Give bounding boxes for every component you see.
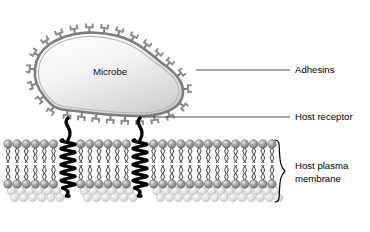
lipid-tail — [81, 165, 83, 182]
lipid-tail — [170, 146, 172, 163]
phospholipid-head-depth — [111, 193, 119, 201]
lipid-tail — [15, 165, 17, 182]
lipid-tail — [234, 165, 236, 182]
phospholipid-head — [95, 140, 103, 148]
lipid-tail — [43, 165, 45, 182]
phospholipid-head-depth — [165, 193, 173, 201]
lipid-tail — [206, 146, 208, 163]
lipid-tail — [216, 146, 218, 163]
phospholipid-head — [195, 180, 203, 188]
phospholipid-head-depth — [238, 193, 246, 201]
lipid-tail — [124, 146, 126, 163]
phospholipid-head-depth — [92, 193, 100, 201]
phospholipid-head — [195, 140, 203, 148]
lipid-tail — [36, 165, 38, 182]
lipid-tail — [45, 165, 47, 182]
phospholipid-head — [240, 180, 248, 188]
adhesin — [167, 58, 174, 66]
phospholipid-head — [259, 140, 267, 148]
phospholipid-head — [231, 180, 239, 188]
lipid-tail — [181, 146, 183, 163]
phospholipid-head — [213, 140, 221, 148]
lipid-tail — [108, 146, 110, 163]
figure-canvas: Microbe Adhesins Host receptor Host plas… — [0, 0, 370, 232]
phospholipid-head — [77, 140, 85, 148]
lipid-tail — [115, 165, 117, 182]
lipid-tail — [190, 165, 192, 182]
phospholipid-head — [49, 180, 57, 188]
phospholipid-head-depth — [220, 193, 228, 201]
phospholipid-head — [250, 140, 258, 148]
phospholipid-head — [259, 180, 267, 188]
lipid-tail — [118, 165, 120, 182]
phospholipid-head-depth — [174, 193, 182, 201]
label-host-receptor: Host receptor — [295, 111, 353, 122]
lipid-tail — [17, 146, 19, 163]
adhesin — [107, 116, 114, 123]
lipid-tail — [88, 146, 90, 163]
phospholipid-head-depth — [20, 193, 28, 201]
lipid-tail — [6, 146, 7, 163]
lipid-tail — [197, 165, 199, 182]
lipid-tail — [218, 165, 220, 182]
lipid-tail — [90, 165, 92, 182]
lipid-tail — [81, 146, 83, 163]
lipid-tail — [170, 165, 172, 182]
lipid-tail — [209, 165, 211, 182]
phospholipid-head — [113, 180, 121, 188]
phospholipid-head — [177, 180, 185, 188]
lipid-tail — [227, 146, 229, 163]
phospholipid-head — [86, 140, 94, 148]
phospholipid-head-depth — [56, 193, 64, 201]
phospholipid-head — [149, 140, 157, 148]
receptor-stalk-lower — [63, 188, 69, 196]
phospholipid-head — [22, 140, 30, 148]
lipid-tail — [236, 165, 238, 182]
adhesin — [28, 82, 36, 89]
lipid-tail — [27, 146, 29, 163]
adhesin — [55, 29, 62, 37]
lipid-tail — [115, 146, 117, 163]
phospholipid-head — [49, 140, 57, 148]
phospholipid-head — [86, 180, 94, 188]
phospholipid-head — [268, 140, 276, 148]
lipid-tail — [108, 165, 110, 182]
lipid-tail — [216, 165, 218, 182]
adhesin — [70, 25, 77, 33]
lipid-tail — [236, 146, 238, 163]
lipid-tail — [8, 165, 10, 182]
lipid-tail — [154, 146, 156, 163]
lipid-tail — [272, 146, 274, 163]
lipid-tail — [27, 165, 29, 182]
adhesin — [26, 65, 34, 72]
adhesin — [167, 112, 174, 120]
lipid-tail — [79, 146, 81, 163]
lipid-tail — [163, 165, 165, 182]
label-host-plasma-membrane-line2: membrane — [295, 173, 341, 184]
phospholipid-head-depth — [247, 193, 255, 201]
microbe: Microbe — [26, 24, 191, 124]
lipid-tail — [15, 146, 17, 163]
phospholipid-head — [31, 180, 39, 188]
adhesin — [78, 113, 85, 121]
lipid-tail — [261, 146, 263, 163]
lipid-tail — [243, 165, 245, 182]
phospholipid-head — [4, 140, 12, 148]
lipid-tail — [234, 146, 236, 163]
phospholipid-head — [104, 140, 112, 148]
lipid-tail — [197, 146, 199, 163]
label-adhesins: Adhesins — [295, 64, 335, 75]
lipid-tail — [172, 165, 174, 182]
adhesin — [36, 97, 44, 104]
lipid-tail — [179, 146, 181, 163]
phospholipid-head — [159, 180, 167, 188]
phospholipid-head — [168, 180, 176, 188]
phospholipid-head — [250, 180, 258, 188]
phospholipid-head — [240, 140, 248, 148]
adhesin — [47, 107, 54, 115]
phospholipid-head-depth — [47, 193, 55, 201]
phospholipid-head-depth — [202, 193, 210, 201]
lipid-tail — [97, 146, 99, 163]
adhesin — [86, 24, 93, 31]
lipid-tail — [8, 146, 10, 163]
